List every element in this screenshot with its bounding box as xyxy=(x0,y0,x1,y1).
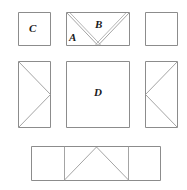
piece-middle-left-rectangle xyxy=(19,62,51,128)
label-b: B xyxy=(95,19,102,30)
label-d: D xyxy=(94,87,102,98)
piece-middle-right-rectangle xyxy=(146,62,178,128)
geometry-figure: A B C D xyxy=(0,0,187,190)
label-a: A xyxy=(69,32,76,43)
piece-top-right-square xyxy=(146,13,178,46)
label-c: C xyxy=(29,23,36,34)
piece-bottom-strip xyxy=(32,147,161,181)
